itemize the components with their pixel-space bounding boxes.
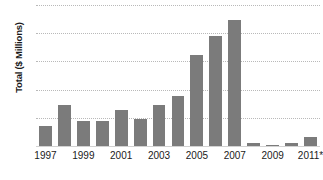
x-axis-tick-labels: 19971999200120032005200720092011* (36, 150, 320, 166)
bar[interactable] (58, 105, 71, 146)
bar[interactable] (172, 96, 185, 146)
bar[interactable] (134, 119, 147, 146)
x-axis-baseline (36, 146, 320, 147)
bars-group (36, 5, 320, 146)
bar[interactable] (96, 121, 109, 146)
y-axis-title: Total ($ Millions) (13, 0, 24, 118)
x-axis-tick-label: 2001 (110, 150, 132, 161)
x-axis-tick-label: 2005 (186, 150, 208, 161)
bar[interactable] (228, 20, 241, 146)
bar[interactable] (39, 126, 52, 146)
bar[interactable] (190, 55, 203, 146)
x-axis-tick-label: 2011* (298, 150, 323, 161)
bar[interactable] (304, 137, 317, 146)
bar[interactable] (153, 105, 166, 146)
plot-area: 250200150100500 (36, 5, 320, 146)
x-axis-tick-label: 1997 (34, 150, 56, 161)
x-axis-tick-label: 1999 (72, 150, 94, 161)
bar[interactable] (209, 36, 222, 146)
bar[interactable] (115, 110, 128, 146)
x-axis-tick-label: 2007 (224, 150, 246, 161)
x-axis-tick-label: 2003 (148, 150, 170, 161)
x-axis-tick-label: 2009 (262, 150, 284, 161)
bar[interactable] (77, 121, 90, 146)
